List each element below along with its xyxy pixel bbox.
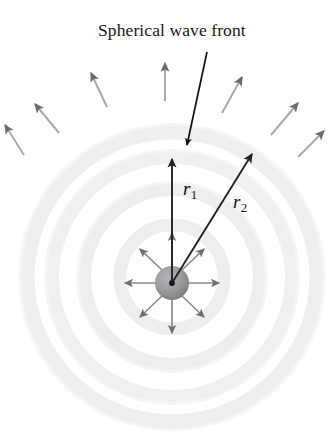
inner-arrow-sw — [140, 295, 163, 317]
r1-label: r1 — [183, 178, 197, 203]
r2-label: r2 — [233, 191, 247, 216]
wave-diagram-canvas — [0, 0, 335, 434]
inner-arrow-se — [181, 295, 204, 317]
outer-arrow-7 — [298, 131, 324, 157]
outer-propagation-arrows — [5, 63, 324, 157]
r2-subscript: 2 — [240, 200, 247, 215]
page-title: Spherical wave front — [98, 20, 246, 41]
r1-subscript: 1 — [190, 187, 197, 202]
spherical-wave-front-figure: Spherical wave front r1 r2 — [0, 0, 335, 434]
outer-arrow-1 — [5, 125, 24, 155]
outer-arrow-5 — [222, 77, 242, 113]
outer-arrow-2 — [35, 104, 59, 133]
outer-arrow-6 — [271, 103, 298, 135]
inner-arrow-nw — [140, 249, 163, 271]
inner-arrow-ne — [181, 249, 204, 271]
outer-arrow-3 — [91, 73, 107, 107]
